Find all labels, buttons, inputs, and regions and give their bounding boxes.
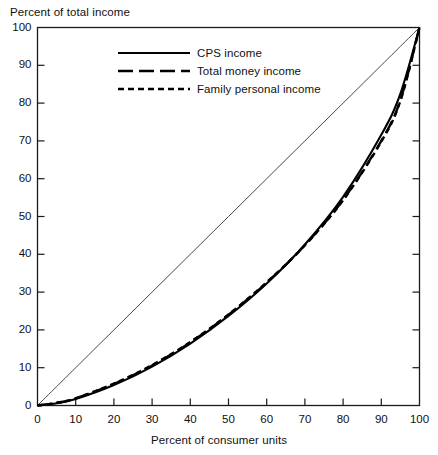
- y-tick-label-50: 50: [4, 210, 32, 222]
- y-tick-label-10: 10: [4, 361, 32, 373]
- x-tick-label-90: 90: [364, 413, 398, 425]
- x-tick-label-80: 80: [326, 413, 360, 425]
- y-axis-label: Percent of total income: [10, 6, 130, 18]
- legend-swatch-short-dash: [118, 83, 190, 95]
- y-tick-label-40: 40: [4, 247, 32, 259]
- y-tick-label-100: 100: [4, 21, 32, 33]
- x-tick-label-30: 30: [135, 413, 169, 425]
- y-tick-label-20: 20: [4, 323, 32, 335]
- legend-label-cps-income: CPS income: [190, 47, 262, 59]
- y-tick-label-60: 60: [4, 172, 32, 184]
- legend-item-total-money-income: Total money income: [118, 62, 348, 80]
- y-tick-label-90: 90: [4, 58, 32, 70]
- y-tick-label-0: 0: [4, 399, 32, 411]
- x-tick-label-100: 100: [403, 413, 437, 425]
- x-axis-label: Percent of consumer units: [0, 434, 438, 446]
- x-tick-label-10: 10: [59, 413, 93, 425]
- x-tick-label-0: 0: [21, 413, 55, 425]
- x-tick-label-20: 20: [97, 413, 131, 425]
- legend-item-cps-income: CPS income: [118, 44, 348, 62]
- lorenz-curve-chart: Percent of total income CPS income Total…: [0, 0, 438, 455]
- chart-legend: CPS income Total money income Family per…: [118, 44, 348, 98]
- y-tick-label-70: 70: [4, 134, 32, 146]
- y-tick-label-80: 80: [4, 96, 32, 108]
- legend-label-total-money-income: Total money income: [190, 65, 301, 77]
- legend-item-family-personal-income: Family personal income: [118, 80, 348, 98]
- x-tick-label-50: 50: [212, 413, 246, 425]
- x-tick-label-70: 70: [288, 413, 322, 425]
- x-tick-label-40: 40: [173, 413, 207, 425]
- legend-swatch-solid: [118, 47, 190, 59]
- legend-label-family-personal-income: Family personal income: [190, 83, 321, 95]
- y-tick-label-30: 30: [4, 285, 32, 297]
- x-tick-label-60: 60: [250, 413, 284, 425]
- legend-swatch-long-dash: [118, 65, 190, 77]
